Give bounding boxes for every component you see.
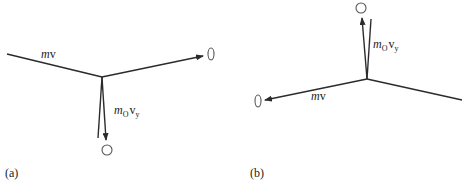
- panel-b: mv mOvy (b): [250, 3, 462, 180]
- label-mo-vy: mOvy: [373, 37, 398, 53]
- recoil-return-line: [98, 77, 102, 138]
- panel-a: mv mOvy (a): [5, 47, 214, 180]
- particle-ellipse-icon: [255, 95, 261, 107]
- label-mo-vy: mOvy: [114, 103, 139, 119]
- particle-ellipse-icon: [208, 48, 214, 60]
- incident-momentum-line: [367, 79, 462, 100]
- particle-circle-icon: [102, 145, 112, 155]
- momentum-diagram: mv mOvy (a) mv mOvy (b): [0, 0, 465, 184]
- scattered-momentum-arrow: [102, 56, 203, 77]
- recoil-momentum-arrow: [362, 18, 367, 79]
- label-mv: mv: [311, 89, 326, 103]
- particle-circle-icon: [356, 3, 366, 13]
- caption-b: (b): [250, 166, 264, 180]
- label-mv: mv: [41, 47, 56, 61]
- recoil-momentum-arrow: [102, 77, 106, 140]
- caption-a: (a): [5, 166, 18, 180]
- recoil-return-line: [367, 19, 371, 79]
